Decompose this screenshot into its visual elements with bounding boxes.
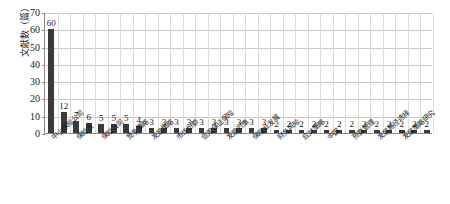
y-tick-label: 10 <box>14 112 40 122</box>
bar-value-label: 60 <box>42 19 60 28</box>
bar <box>424 130 430 133</box>
bar <box>48 29 54 133</box>
y-tick-label: 0 <box>14 129 40 139</box>
y-tick-label: 20 <box>14 94 40 104</box>
bar-chart: 文献数（篇） 010203040506070 60127655543333333… <box>0 0 450 204</box>
y-tick-label: 40 <box>14 60 40 70</box>
y-tick-label: 70 <box>14 8 40 18</box>
y-tick-label: 60 <box>14 25 40 35</box>
plot-area: 601276555433333333332222222222222 <box>44 13 432 134</box>
bar-value-label: 12 <box>55 102 73 111</box>
x-axis-tick-labels: 中小保险公司保险业保险公司竞争策略发展策略市场份额信用保证保险发展对策保险业发展… <box>44 134 432 204</box>
y-tick-label: 30 <box>14 77 40 87</box>
y-tick-label: 50 <box>14 43 40 53</box>
bars-layer: 601276555433333333332222222222222 <box>45 13 432 133</box>
y-axis-tick-labels: 010203040506070 <box>14 8 40 134</box>
